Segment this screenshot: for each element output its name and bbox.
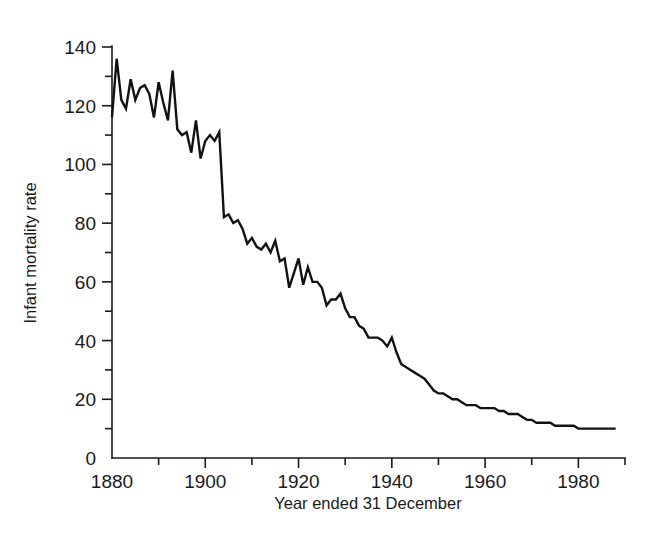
x-tick-label-1980: 1980: [557, 471, 599, 492]
y-axis-ticks: [102, 47, 112, 429]
x-tick-label-1960: 1960: [464, 471, 506, 492]
y-tick-label-100: 100: [64, 154, 96, 175]
y-tick-label-120: 120: [64, 96, 96, 117]
y-tick-label-140: 140: [64, 37, 96, 58]
y-tick-label-60: 60: [75, 272, 96, 293]
y-axis-tick-labels: 020406080100120140: [64, 37, 96, 469]
x-tick-label-1900: 1900: [184, 471, 226, 492]
x-tick-label-1920: 1920: [277, 471, 319, 492]
x-axis-ticks: [159, 458, 625, 468]
infant-mortality-line-chart: 020406080100120140 188019001920194019601…: [0, 0, 666, 537]
x-tick-label-1880: 1880: [91, 471, 133, 492]
data-series-group: [112, 59, 616, 429]
y-axis-label: Infant mortality rate: [21, 182, 39, 323]
y-tick-label-40: 40: [75, 331, 96, 352]
x-axis-label: Year ended 31 December: [274, 494, 462, 512]
x-axis-tick-labels: 188019001920194019601980: [91, 471, 600, 492]
y-tick-label-0: 0: [85, 448, 96, 469]
axis-lines: [112, 46, 625, 458]
y-tick-label-20: 20: [75, 389, 96, 410]
x-tick-label-1940: 1940: [371, 471, 413, 492]
series-line-infant-mortality-rate: [112, 59, 616, 429]
y-tick-label-80: 80: [75, 213, 96, 234]
chart-container: 020406080100120140 188019001920194019601…: [0, 0, 666, 537]
